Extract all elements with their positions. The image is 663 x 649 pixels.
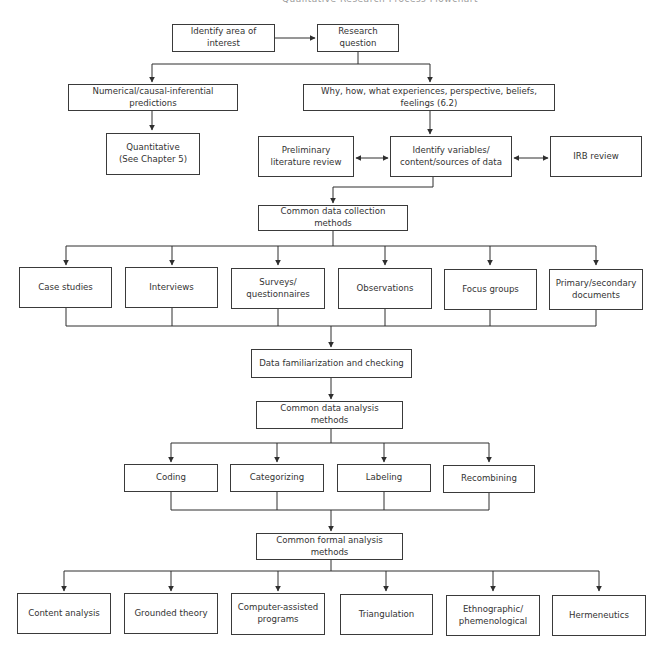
node-label-line2: (See Chapter 5) <box>119 154 187 166</box>
node-label: Identify area of interest <box>177 26 270 49</box>
node-identify-area-of-interest: Identify area of interest <box>172 24 275 52</box>
node-label-line2: documents <box>572 290 620 302</box>
node-label-line2: phemenological <box>459 616 527 628</box>
node-common-data-analysis-methods: Common data analysis methods <box>256 401 403 429</box>
node-label-line2: questionnaires <box>246 289 309 301</box>
node-label-line1: Computer-assisted <box>238 602 318 614</box>
node-label-line1: Content analysis <box>28 608 100 620</box>
node-research-question: Research question <box>317 24 399 52</box>
node-computer-assisted-programs: Computer-assisted programs <box>231 593 325 635</box>
node-data-familiarization: Data familiarization and checking <box>251 349 412 378</box>
node-common-data-collection-methods: Common data collection methods <box>258 205 408 231</box>
node-label: Data familiarization and checking <box>259 358 404 370</box>
node-coding: Coding <box>124 464 218 492</box>
node-content-analysis: Content analysis <box>17 593 111 634</box>
node-label-line1: Hermeneutics <box>569 610 629 622</box>
node-label: Research question <box>322 26 394 49</box>
node-label-line2: literature review <box>271 157 342 169</box>
node-label: Common data collection methods <box>263 206 403 229</box>
node-interviews: Interviews <box>125 267 218 308</box>
node-label-line1: Quantitative <box>126 142 179 154</box>
node-hermeneutics: Hermeneutics <box>552 595 646 636</box>
node-label-line1: Triangulation <box>359 609 415 621</box>
node-label: Coding <box>156 472 186 484</box>
node-primary-secondary-documents: Primary/secondary documents <box>549 269 643 310</box>
node-surveys-questionnaires: Surveys/ questionnaires <box>231 268 325 309</box>
node-identify-variables: Identify variables/ content/sources of d… <box>390 136 512 177</box>
node-triangulation: Triangulation <box>340 594 433 635</box>
node-labeling: Labeling <box>337 464 431 492</box>
node-label-line1: Interviews <box>149 282 193 294</box>
node-label: Labeling <box>366 472 402 484</box>
node-label: Recombining <box>461 473 517 485</box>
node-case-studies: Case studies <box>19 267 112 308</box>
node-ethnographic-phemenological: Ethnographic/ phemenological <box>446 595 540 636</box>
node-preliminary-literature-review: Preliminary literature review <box>258 136 354 177</box>
node-irb-review: IRB review <box>550 136 642 177</box>
node-label-line1: Focus groups <box>462 284 519 296</box>
node-quantitative: Quantitative (See Chapter 5) <box>106 133 200 175</box>
node-label: Categorizing <box>250 472 304 484</box>
node-label-line1: Case studies <box>38 282 93 294</box>
node-label-line1: Observations <box>357 283 414 295</box>
node-label-line2: programs <box>257 614 298 626</box>
node-recombining: Recombining <box>443 465 535 493</box>
node-label: IRB review <box>573 151 619 163</box>
node-common-formal-analysis-methods: Common formal analysis methods <box>256 533 403 560</box>
node-focus-groups: Focus groups <box>444 269 537 310</box>
node-label-line1: Ethnographic/ <box>463 604 523 616</box>
node-observations: Observations <box>338 268 432 309</box>
node-label: Numerical/causal-inferential predictions <box>73 86 233 109</box>
node-label-line1: Surveys/ <box>259 277 296 289</box>
node-label: Common data analysis methods <box>261 403 398 426</box>
node-numerical-predictions: Numerical/causal-inferential predictions <box>68 84 238 111</box>
node-label: Why, how, what experiences, perspective,… <box>308 86 550 109</box>
node-label-line1: Preliminary <box>282 145 331 157</box>
node-label-line1: Identify variables/ <box>412 145 489 157</box>
node-label-line1: Primary/secondary <box>556 278 637 290</box>
node-label: Common formal analysis methods <box>261 535 398 558</box>
node-why-how-what: Why, how, what experiences, perspective,… <box>303 84 555 111</box>
node-label-line2: content/sources of data <box>400 157 502 169</box>
node-label-line1: Grounded theory <box>134 608 207 620</box>
node-grounded-theory: Grounded theory <box>124 593 218 634</box>
node-categorizing: Categorizing <box>230 464 324 492</box>
